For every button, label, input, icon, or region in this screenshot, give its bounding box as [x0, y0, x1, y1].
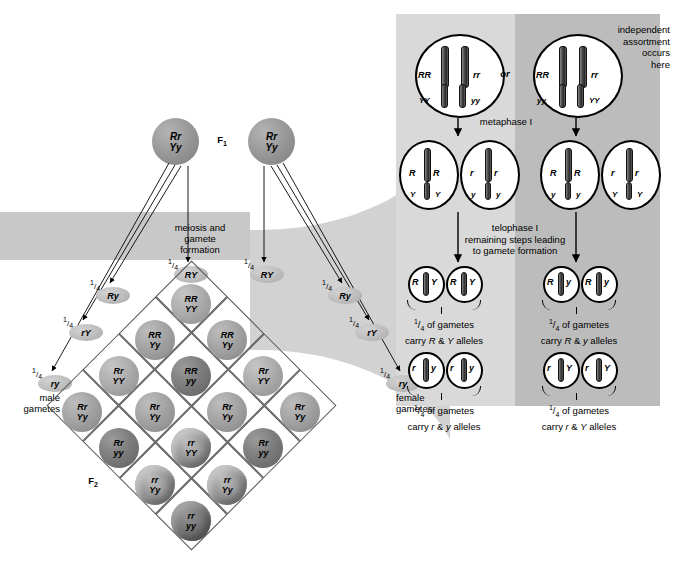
- telophase-4-allele-tr: r: [635, 168, 639, 178]
- gametes-Ry-caption-line1: of gametes: [562, 319, 609, 330]
- metaphase-right-lower-left: yy: [537, 96, 546, 105]
- female-gamete-ry-label: ry: [399, 379, 408, 389]
- gametes-RY-caption-line1: of gametes: [427, 319, 474, 330]
- ia-l2: assortment: [623, 36, 670, 47]
- gametes-Ry-cell-0-contents: Ry: [543, 266, 576, 299]
- gametes-Ry-cell-0-allele-right: y: [566, 277, 571, 287]
- punnett-seed-rrYy-r3-c2: rrYy: [135, 465, 175, 505]
- telophase-1-allele-tl: R: [409, 168, 416, 178]
- gametes-ry-brace-tip: [441, 393, 448, 400]
- telophase-4-allele-tl: r: [611, 168, 615, 178]
- female-gamete-rY: rY: [355, 324, 389, 341]
- gametes-ry-caption-line2: carry r & y alleles: [408, 421, 481, 432]
- chromosome: [424, 182, 430, 200]
- chromosome: [565, 182, 571, 200]
- gametes-ry-cell-1-allele-left: r: [450, 363, 454, 373]
- gametes-Ry-cell-1-allele-left: R: [585, 277, 592, 287]
- telophase-3-allele-bl: y: [551, 190, 555, 199]
- chromosome: [424, 148, 431, 182]
- f1-label: F1: [202, 134, 242, 149]
- chromosome: [626, 182, 632, 200]
- gametes-RY-cell-0-allele-left: R: [412, 277, 419, 287]
- gametes-rY-cell-1-contents: rY: [581, 352, 614, 385]
- gametes-Ry-caption: 1/4 of gametescarry R & y alleles: [527, 316, 631, 346]
- punnett-seed-RRYy-r1-c0: RRYy: [135, 320, 175, 360]
- gametes-RY-cell-0-contents: RY: [408, 266, 441, 299]
- chromosome: [596, 358, 602, 382]
- telophase-2-allele-tr: r: [494, 168, 498, 178]
- telophase-l1: telophase I: [492, 222, 538, 233]
- gametes-ry-cell-1-contents: ry: [446, 352, 479, 385]
- f1-left-genotype-top: Rr: [170, 131, 181, 142]
- gametes-rY-cell-0-allele-left: r: [547, 363, 551, 373]
- chromosome: [577, 84, 584, 108]
- telophase-4-contents: rrYY: [601, 140, 657, 206]
- metaphase-right-lower-right: YY: [589, 96, 600, 105]
- chromosome: [565, 148, 572, 182]
- telophase-2-allele-br: y: [496, 190, 500, 199]
- metaphase-left-lower-left: YY: [419, 96, 430, 105]
- f1-right-genotype-top: Rr: [266, 131, 277, 142]
- telophase-3-allele-tl: R: [550, 168, 557, 178]
- gametes-RY-cell-1-allele-left: R: [450, 277, 457, 287]
- gametes-RY-cell-0-allele-right: Y: [431, 277, 437, 287]
- telophase-4-allele-br: Y: [637, 190, 642, 199]
- punnett-seed-rryy-r3-c3: rryy: [171, 501, 211, 541]
- chromosome: [485, 148, 492, 182]
- independent-assortment-note: independent assortment occurs here: [578, 24, 670, 70]
- metaphase-left-contents: RRrrYYyy: [415, 34, 501, 114]
- gametes-rY-fraction: 1/4: [549, 405, 559, 416]
- chromosome: [459, 84, 466, 108]
- ia-l4: here: [651, 59, 670, 70]
- gametes-ry-caption-line1: of gametes: [427, 405, 474, 416]
- ia-l1: independent: [618, 24, 670, 35]
- gametes-Ry-brace-tip: [576, 307, 583, 314]
- metaphase-right-right-allele: rr: [591, 70, 598, 80]
- figure-canvas: Rr Yy Rr Yy F1 meiosis and gamete format…: [0, 0, 675, 568]
- chromosome: [461, 358, 467, 382]
- gametes-Ry-fraction: 1/4: [549, 319, 559, 330]
- chromosome: [559, 84, 566, 108]
- metaphase-left-lower-right: yy: [471, 96, 480, 105]
- telophase-3-contents: RRyy: [540, 140, 596, 206]
- gametes-ry-cell-1-allele-right: y: [469, 363, 474, 373]
- gametes-ry-fraction: 1/4: [414, 405, 424, 416]
- female-gamete-rY-label: rY: [367, 328, 377, 338]
- f2-label: F2: [78, 475, 108, 490]
- gametes-RY-cell-1-allele-right: Y: [469, 277, 475, 287]
- punnett-seed-Rryy-r3-c1: Rryy: [99, 428, 139, 468]
- meiosis-caption-l1: meiosis and: [175, 222, 226, 233]
- f1-parent-right: Rr Yy: [248, 118, 295, 165]
- meiosis-caption-l2: gamete: [184, 233, 216, 244]
- gametes-Ry-cell-0-allele-left: R: [547, 277, 554, 287]
- gametes-rY-caption: 1/4 of gametescarry r & Y alleles: [527, 402, 631, 432]
- telophase-1-contents: RRYY: [399, 140, 455, 206]
- chromosome: [559, 46, 567, 88]
- meiosis-caption-l3: formation: [180, 244, 220, 255]
- ia-l3: occurs: [642, 47, 670, 58]
- f1-parent-left: Rr Yy: [152, 118, 199, 165]
- gametes-RY-brace-tip: [441, 307, 448, 314]
- telophase-1-allele-bl: Y: [410, 190, 415, 199]
- gametes-RY-fraction: 1/4: [414, 319, 424, 330]
- metaphase-label: metaphase I: [466, 116, 546, 128]
- chromosome: [596, 272, 602, 296]
- gametes-rY-brace-tip: [576, 393, 583, 400]
- chromosome: [423, 358, 429, 382]
- telophase-1-allele-br: Y: [435, 190, 440, 199]
- gametes-rY-cell-1-allele-left: r: [585, 363, 589, 373]
- gametes-rY-cell-0-contents: rY: [543, 352, 576, 385]
- chromosome: [441, 46, 449, 88]
- gametes-Ry-caption-line2: carry R & y alleles: [541, 335, 618, 346]
- gametes-rY-caption-line1: of gametes: [562, 405, 609, 416]
- gametes-ry-cell-0-allele-right: y: [431, 363, 436, 373]
- gametes-Ry-cell-1-allele-right: y: [604, 277, 609, 287]
- meiosis-caption: meiosis and gamete formation: [156, 222, 244, 255]
- female-gamete-Ry-label: Ry: [339, 291, 351, 301]
- gametes-Ry-cell-1-contents: Ry: [581, 266, 614, 299]
- chromosome: [558, 358, 564, 382]
- telophase-3-allele-br: y: [576, 190, 580, 199]
- metaphase-left-left-allele: RR: [418, 70, 431, 80]
- punnett-square: RRYYRRYyRrYYRrYyRRYyRRyyRrYyRryyRrYYRrYy…: [46, 262, 336, 552]
- gametes-ry-cell-0-contents: ry: [408, 352, 441, 385]
